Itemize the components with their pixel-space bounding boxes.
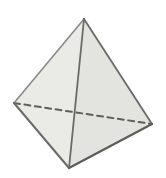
tetrahedron-figure [0,0,166,178]
tetrahedron-svg [0,0,166,178]
